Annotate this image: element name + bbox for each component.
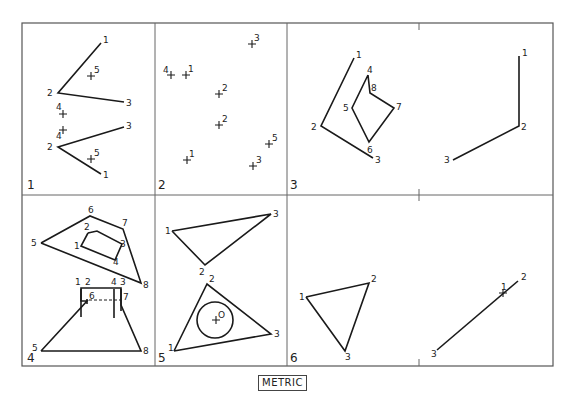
panel-2: 34122513: [163, 33, 278, 170]
point-label: 3: [256, 155, 262, 165]
point-label: 8: [143, 346, 149, 356]
point-label: 3: [345, 352, 351, 362]
point-label: 2: [84, 222, 90, 232]
point-label: 3: [126, 98, 132, 108]
point-label: 2: [371, 274, 377, 284]
panel-number: 6: [290, 351, 298, 365]
point-label: 2: [222, 114, 228, 124]
point-label: 4: [113, 257, 119, 267]
point-label: 1: [189, 149, 195, 159]
point-label: 4: [56, 131, 62, 141]
point-label: 3: [273, 209, 279, 219]
point-label: 3: [126, 121, 132, 131]
point-label: 2: [47, 88, 53, 98]
panel-number: 3: [290, 178, 298, 192]
point-label: 8: [143, 280, 149, 290]
point-label: 2: [209, 274, 215, 284]
point-label: 3: [274, 329, 280, 339]
point-label: 6: [88, 205, 94, 215]
panel-3: 12348576: [311, 50, 402, 165]
point-label: 2: [85, 277, 91, 287]
point-label: 1: [75, 277, 81, 287]
point-label: O: [218, 310, 225, 320]
panel-4: 123: [444, 48, 528, 165]
point-label: 3: [254, 33, 260, 43]
point-label: 5: [31, 238, 37, 248]
point-label: 2: [47, 142, 53, 152]
point-label: 1: [501, 282, 507, 292]
point-label: 1: [103, 170, 109, 180]
point-label: 7: [123, 292, 129, 302]
point-label: 5: [94, 148, 100, 158]
point-label: 2: [521, 122, 527, 132]
panel-8: 213: [431, 272, 527, 359]
point-label: 1: [356, 50, 362, 60]
point-label: 1: [168, 343, 174, 353]
point-label: 3: [444, 155, 450, 165]
point-label: 3: [120, 239, 126, 249]
point-label: 6: [89, 291, 95, 301]
point-label: 7: [396, 102, 402, 112]
edge-line: [453, 56, 519, 160]
point-label: 1: [299, 292, 305, 302]
edge-line: [58, 127, 124, 174]
point-label: 3: [375, 155, 381, 165]
point-label: 1: [165, 226, 171, 236]
panel-6: 3122O31: [165, 209, 280, 353]
point-label: 3: [431, 349, 437, 359]
point-label: 5: [343, 103, 349, 113]
panel-1: 1235443251: [47, 35, 132, 180]
point-label: 1: [188, 64, 194, 74]
point-label: 2: [311, 122, 317, 132]
point-label: 2: [222, 83, 228, 93]
drawing-sheet: 1235443251341225131234857612367251348124…: [0, 0, 571, 406]
point-label: 4: [56, 102, 62, 112]
point-label: 5: [94, 65, 100, 75]
panel-number: 2: [158, 178, 166, 192]
point-label: 2: [521, 272, 527, 282]
edge-line: [306, 283, 369, 351]
point-label: 4: [367, 65, 373, 75]
point-label: 6: [367, 145, 373, 155]
point-label: 2: [199, 267, 205, 277]
panel-5: 6725134812436758: [31, 205, 149, 356]
point-label: 8: [371, 83, 377, 93]
panel-number: 1: [27, 178, 35, 192]
metric-label: METRIC: [258, 375, 307, 391]
point-label: 5: [272, 133, 278, 143]
point-label: 1: [103, 35, 109, 45]
point-label: 4: [163, 65, 169, 75]
edge-line: [172, 214, 271, 265]
edge-line: [81, 231, 122, 260]
point-label: 4: [111, 277, 117, 287]
point-label: 3: [120, 277, 126, 287]
panel-7: 123: [299, 274, 377, 362]
point-label: 1: [522, 48, 528, 58]
point-label: 7: [122, 218, 128, 228]
panel-number: 5: [158, 351, 166, 365]
panel-number: 4: [27, 351, 35, 365]
drawing-content: 1235443251341225131234857612367251348124…: [27, 33, 528, 365]
point-label: 1: [74, 241, 80, 251]
